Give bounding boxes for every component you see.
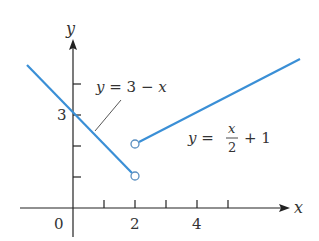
eq2-lhs: y = [187, 129, 214, 147]
eq2-rest: + 1 [244, 129, 271, 147]
equation-label-1: y = 3 − x [95, 78, 167, 96]
open-circle-marker [131, 140, 139, 148]
equation-label-2: y = x 2 + 1 [187, 121, 271, 155]
eq2-equals: = [196, 129, 213, 147]
x-tick-label-2: 2 [130, 215, 140, 233]
x-tick-label-4: 4 [192, 215, 202, 233]
open-circle-marker [131, 172, 139, 180]
x-axis-label: x [294, 198, 303, 217]
eq1-x: x [158, 78, 167, 96]
eq2-denominator: 2 [228, 140, 236, 155]
eq2-numerator: x [228, 121, 236, 136]
annotation-pointer-line [95, 100, 121, 131]
origin-label: 0 [54, 215, 64, 233]
y-tick-label-3: 3 [57, 106, 67, 124]
eq1-rest: = 3 − [104, 78, 158, 96]
piecewise-function-graph: x y 0 2 4 3 y = 3 − x y = x 2 + 1 [0, 0, 319, 241]
line-y-equals-x-over-2-plus-1 [139, 59, 300, 142]
y-axis-label: y [65, 19, 76, 38]
